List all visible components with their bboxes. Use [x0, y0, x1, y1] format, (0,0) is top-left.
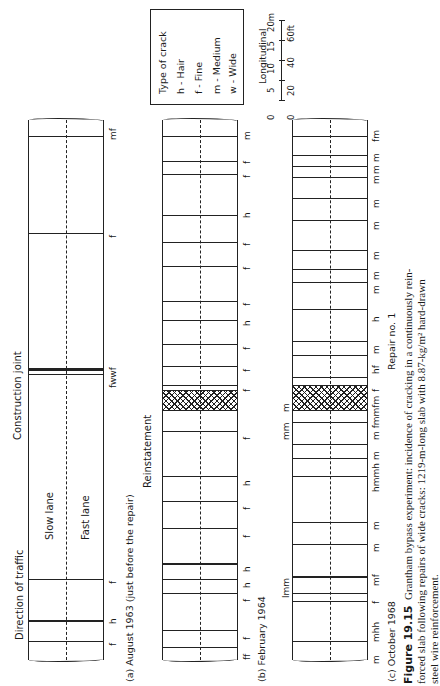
crack-label-b: h	[242, 480, 252, 486]
figure-number: Figure 19.15	[402, 606, 415, 685]
crack-label-b: f	[242, 389, 252, 392]
crack-label-a: h	[108, 618, 118, 624]
crack-label-c: m	[371, 285, 381, 294]
crack-label-a: f	[108, 643, 118, 646]
crack-label-c: hmmh	[371, 463, 381, 492]
crack-label-c: m	[371, 199, 381, 208]
repair-label: Repair no. 1	[386, 313, 397, 370]
crack-label-b: f	[242, 267, 252, 270]
construction-joint-label: Construction joint	[12, 351, 23, 440]
crack-label-c: m	[371, 451, 381, 460]
crack-label-c: fm	[371, 130, 381, 142]
crack-label-c: m fmmfm	[371, 396, 381, 440]
scale-ft-60: 60ft	[286, 25, 296, 42]
crack-label-a: f	[108, 581, 118, 584]
crack-label-c: m	[371, 345, 381, 354]
crack-label-b: ff	[242, 654, 252, 660]
side-label-c: m	[281, 403, 291, 412]
scale-ft-40: 40	[286, 57, 296, 68]
crack-type-legend: Type of crack h - Hair f - Fine m - Medi…	[150, 9, 244, 105]
crack-label-c: hf	[371, 365, 381, 374]
crack-label-b: m	[242, 131, 252, 140]
scale-m-5: 5	[266, 88, 276, 93]
caption-line-3: steel wire reinforcement.	[428, 574, 440, 684]
crack-label-b: h	[242, 582, 252, 588]
crack-label-c: m	[371, 543, 381, 552]
legend-title: Type of crack	[157, 31, 168, 94]
legend-item-medium: m - Medium	[211, 37, 222, 94]
caption-line-1-text: Grantham bypass experiment: incidence of…	[402, 269, 414, 600]
legend-item-fine: f - Fine	[193, 62, 204, 94]
scale-m-0: 0	[266, 115, 276, 120]
crack-label-b: f	[242, 369, 252, 372]
scale-title: Longitudinal	[258, 29, 268, 84]
crack-label-c: m	[371, 175, 381, 184]
crack-label-b: f	[242, 161, 252, 164]
legend-item-hair: h - Hair	[175, 59, 186, 94]
reinstatement-hatch	[163, 390, 237, 411]
crack-label-b: f	[242, 535, 252, 538]
crack-label-b: h	[242, 566, 252, 572]
crack-label-b: f	[242, 437, 252, 440]
scale-m-10: 10	[266, 63, 276, 74]
crack-label-c: f	[371, 389, 381, 392]
slab-strip-b	[162, 120, 238, 660]
panel-c-label: (c) October 1968	[386, 601, 397, 682]
caption-line-2: forced slab following repairs of wide cr…	[415, 279, 427, 684]
crack-label-c: h	[371, 316, 381, 322]
crack-label-c: m	[371, 655, 381, 664]
slab-strip-a	[28, 120, 104, 660]
crack-label-b: f	[242, 243, 252, 246]
crack-label-b: f	[242, 507, 252, 510]
crack-label-b: h	[242, 320, 252, 326]
legend-item-wide: w - Wide	[227, 53, 238, 94]
crack-label-c: m	[371, 221, 381, 230]
crack-label-a: f	[108, 235, 118, 238]
caption-line-1: Figure 19.15 Grantham bypass experiment:…	[402, 269, 415, 684]
crack-label-a: mf	[108, 128, 118, 140]
crack-label-c: f	[371, 601, 381, 604]
slab-strip-c	[292, 120, 368, 660]
crack-label-a: fwwf	[108, 367, 118, 388]
crack-label-b: f	[242, 303, 252, 306]
panel-b-label: (b) February 1964	[256, 596, 267, 682]
crack-label-c: mhh	[371, 622, 381, 642]
crack-label-c: m	[371, 251, 381, 260]
panel-a-label: (a) August 1963 (just before the repair)	[124, 494, 135, 682]
crack-label-b: f	[242, 637, 252, 640]
scale-m-15: 15	[266, 41, 276, 52]
crack-label-b: f	[242, 175, 252, 178]
side-label-c: mm	[281, 422, 291, 440]
side-label-c: lmm	[281, 578, 291, 598]
reinstatement-label: Reinstatement	[142, 415, 153, 488]
crack-label-c: m	[371, 153, 381, 162]
crack-label-c: mf	[371, 574, 381, 586]
reinstatement-hatch	[293, 385, 367, 411]
direction-of-traffic-label: Direction of traffic	[14, 550, 25, 641]
crack-label-b: f	[242, 347, 252, 350]
crack-label-c: m	[371, 521, 381, 530]
scale-m-20: 20m	[266, 13, 276, 32]
crack-label-c: m	[371, 271, 381, 280]
scale-ft-20: 20	[286, 85, 296, 96]
crack-label-b: f	[242, 599, 252, 602]
crack-label-b: h	[242, 212, 252, 218]
crack-label-c: m	[371, 165, 381, 174]
scale-axis-line	[281, 20, 282, 100]
